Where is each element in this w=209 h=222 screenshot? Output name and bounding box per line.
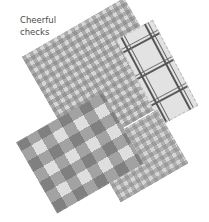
caption: Cheerful checks — [20, 14, 56, 38]
caption-line-1: Cheerful — [20, 14, 56, 26]
caption-line-2: checks — [20, 26, 56, 38]
